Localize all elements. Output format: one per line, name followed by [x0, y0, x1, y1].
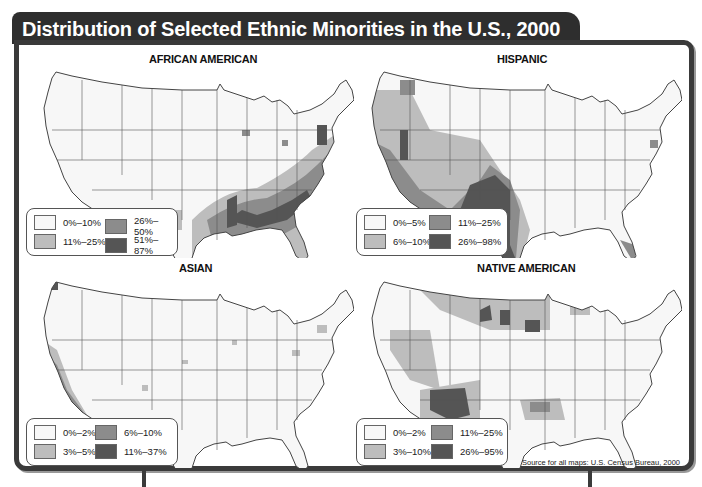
legend-item: 6%–10%	[95, 425, 162, 440]
legend-swatch	[34, 425, 56, 440]
legend-swatch	[105, 219, 127, 234]
legend-item: 0%–2%	[34, 425, 96, 440]
source-credit: Source for all maps: U.S. Census Bureau,…	[522, 458, 680, 467]
legend-swatch	[95, 425, 117, 440]
legend-swatch	[431, 444, 453, 459]
legend-swatch	[105, 238, 127, 253]
legend-item: 0%–5%	[364, 215, 426, 230]
map-panel-asian: ASIAN 0%–2% 3%–5% 6%–10% 11%–37%	[24, 258, 354, 468]
legend-item: 3%–5%	[34, 444, 96, 459]
legend-native-american: 0%–2% 3%–10% 11%–25% 26%–95%	[356, 418, 508, 466]
legend-item: 26%–98%	[429, 234, 501, 249]
legend-item: 11%–37%	[95, 444, 167, 459]
legend-swatch	[431, 425, 453, 440]
legend-item: 11%–25%	[431, 425, 503, 440]
legend-hispanic: 0%–5% 6%–10% 11%–25% 26%–98%	[356, 208, 508, 256]
frame-stem-left	[142, 466, 146, 487]
map-panel-native-american: NATIVE AMERICAN 0%–2% 3%–10% 11%–25% 26%…	[352, 258, 682, 468]
legend-item: 26%–95%	[431, 444, 503, 459]
legend-african-american: 0%–10% 11%–25% 26%–50% 51%–87%	[26, 208, 178, 256]
legend-swatch	[34, 234, 56, 249]
legend-swatch	[364, 444, 386, 459]
legend-item: 3%–10%	[364, 444, 431, 459]
legend-swatch	[34, 444, 56, 459]
legend-item: 51%–87%	[105, 234, 177, 256]
legend-item: 11%–25%	[429, 215, 501, 230]
map-panel-hispanic: HISPANIC 0%–5% 6%–10% 11%–25% 26%–98%	[352, 48, 682, 258]
legend-swatch	[34, 215, 56, 230]
legend-item: 0%–2%	[364, 425, 426, 440]
legend-swatch	[429, 215, 451, 230]
legend-asian: 0%–2% 3%–5% 6%–10% 11%–37%	[26, 418, 178, 466]
map-panel-african-american: AFRICAN AMERICAN 0%–10% 11%–25% 26%–50% …	[24, 48, 354, 258]
legend-swatch	[429, 234, 451, 249]
legend-swatch	[364, 425, 386, 440]
legend-swatch	[364, 215, 386, 230]
legend-item: 6%–10%	[364, 234, 431, 249]
legend-item: 11%–25%	[34, 234, 106, 249]
legend-swatch	[364, 234, 386, 249]
legend-swatch	[95, 444, 117, 459]
frame-stem-right	[588, 466, 592, 487]
legend-item: 0%–10%	[34, 215, 101, 230]
